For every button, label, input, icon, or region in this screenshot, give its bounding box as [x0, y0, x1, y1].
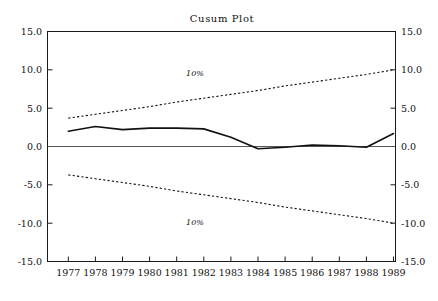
y-tick-left-4: -5.0: [24, 179, 42, 190]
chart-canvas: Cusum Plot 15.0 10.0 5.0 0.0: [0, 0, 438, 301]
x-tick-label-1979: 1979: [110, 267, 134, 278]
x-tick-label-1982: 1982: [192, 267, 216, 278]
y-tick-right-2: 5.0: [401, 103, 416, 114]
y-tick-right-1: 10.0: [401, 64, 422, 75]
x-tick-label-1978: 1978: [83, 267, 107, 278]
x-tick-label-1977: 1977: [56, 267, 80, 278]
y-tick-right-5: -10.0: [401, 218, 425, 229]
y-tick-right-0: 15.0: [401, 26, 422, 37]
y-tick-left-5: -10.0: [18, 218, 42, 229]
chart-background: [0, 0, 438, 301]
y-tick-left-6: -15.0: [18, 256, 42, 267]
chart-title: Cusum Plot: [190, 13, 254, 24]
x-tick-label-1987: 1987: [327, 267, 351, 278]
y-tick-left-0: 15.0: [21, 26, 42, 37]
y-tick-right-4: -5.0: [401, 179, 419, 190]
x-tick-label-1986: 1986: [300, 267, 324, 278]
y-tick-right-6: -15.0: [401, 256, 425, 267]
y-tick-left-2: 5.0: [27, 103, 42, 114]
x-tick-label-1983: 1983: [219, 267, 243, 278]
x-tick-label-1985: 1985: [273, 267, 297, 278]
x-tick-label-1980: 1980: [138, 267, 162, 278]
x-tick-label-1984: 1984: [246, 267, 270, 278]
x-tick-label-1988: 1988: [354, 267, 378, 278]
y-tick-left-3: 0.0: [27, 141, 42, 152]
y-tick-left-1: 10.0: [21, 64, 42, 75]
upper-boundary-annotation: 10%: [186, 69, 204, 78]
lower-boundary-annotation: 10%: [186, 218, 204, 227]
x-tick-label-1989: 1989: [381, 267, 405, 278]
cusum-plot-figure: Cusum Plot 15.0 10.0 5.0 0.0: [0, 0, 438, 301]
x-tick-label-1981: 1981: [165, 267, 189, 278]
y-tick-right-3: 0.0: [401, 141, 416, 152]
